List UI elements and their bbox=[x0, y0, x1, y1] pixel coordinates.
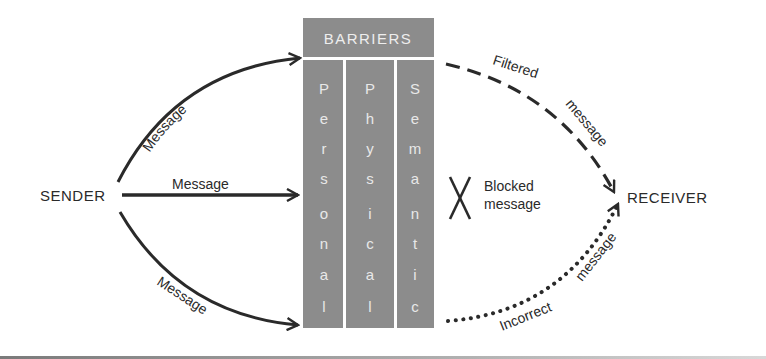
incorrect-label-word1: Incorrect bbox=[497, 299, 554, 334]
svg-text:e: e bbox=[411, 110, 419, 127]
svg-text:y: y bbox=[366, 140, 374, 157]
top-message-label: Message bbox=[139, 101, 190, 155]
svg-text:c: c bbox=[366, 235, 374, 252]
top-message-arrow bbox=[118, 58, 300, 182]
svg-text:i: i bbox=[413, 266, 416, 283]
barrier-column-semantic bbox=[397, 60, 434, 328]
svg-text:S: S bbox=[410, 80, 420, 97]
svg-text:c: c bbox=[411, 298, 419, 315]
blocked-label-word2: message bbox=[484, 196, 541, 212]
filtered-label-word1: Filtered bbox=[491, 52, 540, 82]
svg-text:l: l bbox=[368, 298, 371, 315]
incorrect-label-word2: message bbox=[572, 229, 620, 284]
svg-text:P: P bbox=[365, 80, 375, 97]
svg-text:e: e bbox=[320, 110, 328, 127]
svg-text:n: n bbox=[411, 205, 419, 222]
svg-text:h: h bbox=[366, 110, 374, 127]
svg-text:o: o bbox=[320, 205, 328, 222]
barrier-column-physical bbox=[346, 60, 394, 328]
middle-message-label: Message bbox=[172, 176, 229, 192]
svg-text:m: m bbox=[409, 140, 422, 157]
barriers-block: BARRIERS P e r s o n a l P h y s i c a l bbox=[303, 18, 434, 328]
bottom-message-arrow bbox=[120, 212, 298, 325]
svg-text:a: a bbox=[366, 266, 375, 283]
svg-text:i: i bbox=[368, 205, 371, 222]
svg-text:s: s bbox=[366, 170, 374, 187]
svg-text:l: l bbox=[322, 298, 325, 315]
receiver-label: RECEIVER bbox=[627, 189, 708, 206]
svg-text:s: s bbox=[320, 170, 328, 187]
blocked-label-word1: Blocked bbox=[484, 178, 534, 194]
svg-text:n: n bbox=[320, 235, 328, 252]
svg-text:P: P bbox=[319, 80, 329, 97]
svg-text:r: r bbox=[322, 140, 327, 157]
filtered-label-word2: message bbox=[563, 96, 612, 150]
blocked-x-icon bbox=[450, 177, 470, 219]
barriers-title: BARRIERS bbox=[324, 30, 413, 47]
sender-label: SENDER bbox=[40, 187, 106, 204]
barrier-column-personal bbox=[303, 60, 343, 328]
svg-text:a: a bbox=[320, 266, 329, 283]
communication-barriers-diagram: SENDER RECEIVER Message Message Message … bbox=[0, 0, 766, 359]
svg-text:a: a bbox=[411, 170, 420, 187]
